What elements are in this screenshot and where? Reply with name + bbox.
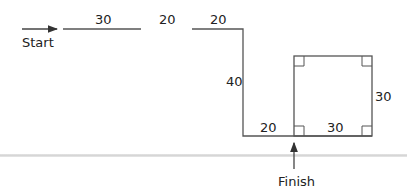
gap-label: 20 [159,12,176,27]
segment-3-label: 40 [226,74,243,89]
right-angle-marker-bottom-left [294,126,304,136]
start-label: Start [22,35,54,50]
right-angle-marker-top-right [362,56,372,66]
route-diagram: Start 30 20 20 40 20 30 30 Finish [0,0,407,194]
segment-4-label: 20 [260,120,277,135]
finish-label: Finish [278,174,315,189]
segment-1-label: 30 [95,12,112,27]
segment-2-label: 20 [210,12,227,27]
square-bottom-label: 30 [327,120,344,135]
right-angle-marker-top-left [294,56,304,66]
square-right-label: 30 [375,89,392,104]
segment-2-path [192,29,372,136]
right-angle-marker-bottom-right [362,126,372,136]
